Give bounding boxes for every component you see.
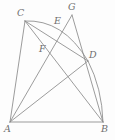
segment-c-b — [25, 21, 103, 122]
segment-a-d — [10, 61, 88, 122]
geometry-figure: A B C D E F G — [0, 0, 115, 140]
vertex-label-b: B — [101, 124, 108, 134]
vertex-label-d: D — [89, 50, 97, 60]
vertex-label-a: A — [4, 124, 11, 134]
vertex-label-g: G — [68, 2, 76, 12]
segment-c-d — [25, 21, 88, 61]
segment-group — [10, 15, 103, 122]
vertex-label-c: C — [17, 8, 24, 18]
segment-g-b — [72, 15, 103, 122]
vertex-label-f: F — [39, 44, 46, 54]
segment-a-c — [10, 21, 25, 122]
vertex-label-e: E — [54, 16, 61, 26]
